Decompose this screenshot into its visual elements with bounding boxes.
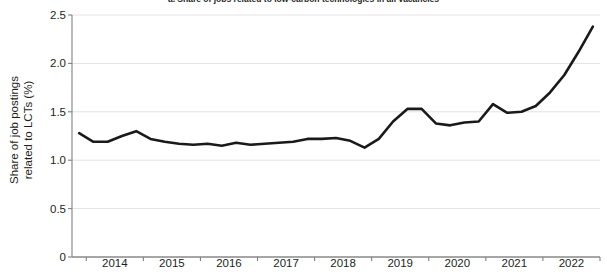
- axes: [72, 15, 600, 257]
- gridlines: [72, 15, 600, 257]
- chart-canvas: [0, 0, 607, 279]
- y-axis-tick-marks: [68, 15, 72, 257]
- chart-figure: a. Share of jobs related to low-carbon t…: [0, 0, 607, 279]
- data-series-line: [79, 27, 593, 148]
- x-axis-tick-marks: [86, 257, 600, 261]
